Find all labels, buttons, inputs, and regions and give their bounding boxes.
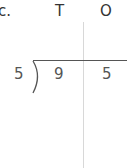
dividend-tens-digit: 9 (54, 65, 64, 83)
ones-column-header: O (100, 2, 112, 20)
division-bracket-icon (30, 60, 46, 94)
column-divider (83, 22, 84, 168)
dividend-ones-digit: 5 (102, 65, 112, 83)
division-bar (33, 60, 127, 61)
problem-label: c. (0, 2, 11, 20)
tens-column-header: T (55, 2, 64, 20)
divisor: 5 (14, 65, 24, 83)
